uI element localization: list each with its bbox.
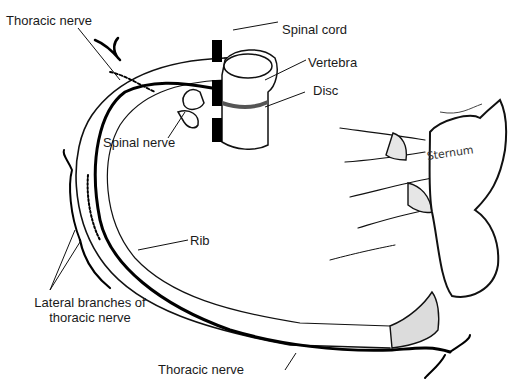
label-lateral-branches-line1: Lateral branches of [20,295,160,310]
spinal-cord-upper [212,40,222,62]
label-lateral-branches: Lateral branches of thoracic nerve [20,295,160,325]
label-disc: Disc [313,83,338,98]
spinal-cord-lower [212,118,222,142]
label-lateral-branches-line2: thoracic nerve [20,310,160,325]
label-spinal-nerve: Spinal nerve [103,135,175,150]
vertebra-shape [178,50,277,149]
spinal-cord-middle [212,80,222,106]
label-rib: Rib [190,233,210,248]
label-thoracic-nerve-top: Thoracic nerve [6,13,92,28]
label-thoracic-nerve-bottom: Thoracic nerve [158,362,244,377]
label-spinal-cord: Spinal cord [282,22,347,37]
label-vertebra: Vertebra [308,55,357,70]
anatomy-illustration [0,0,523,383]
sternum-shape [430,100,507,297]
thoracic-nerve-diagram: Thoracic nerve Spinal cord Vertebra Disc… [0,0,523,383]
